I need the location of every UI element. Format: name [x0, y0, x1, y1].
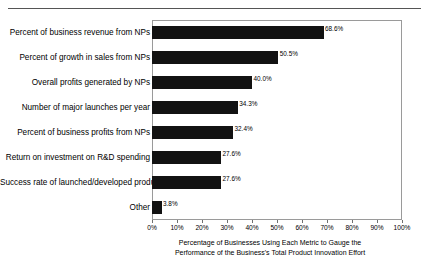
bar: [152, 101, 238, 114]
x-axis-tick-label: 100%: [394, 224, 411, 231]
x-axis-tick-label: 10%: [170, 224, 183, 231]
x-axis-tick-label: 80%: [345, 224, 358, 231]
category-label: Percent of business profits from NPs: [0, 128, 152, 137]
bar-row: Overall profits generated by NPs40.0%: [0, 70, 402, 95]
bar-row: Percent of business revenue from NPs68.6…: [0, 20, 402, 45]
bar: [152, 26, 324, 39]
x-axis-tick-label: 40%: [245, 224, 258, 231]
bar-row: Other3.8%: [0, 195, 402, 220]
bar-value-label: 32.4%: [235, 126, 253, 132]
x-axis-tick: [377, 220, 378, 223]
bar-track: 32.4%: [152, 120, 402, 145]
x-axis-tick: [227, 220, 228, 223]
bar-track: 3.8%: [152, 195, 402, 220]
x-axis-tick: [327, 220, 328, 223]
category-label: Percent of business revenue from NPs: [0, 28, 152, 37]
bar-value-label: 27.6%: [223, 176, 241, 182]
bar-row: Number of major launches per year34.3%: [0, 95, 402, 120]
bar: [152, 51, 278, 64]
x-axis-tick-label: 50%: [270, 224, 283, 231]
x-axis-tick: [177, 220, 178, 223]
x-axis-tick-label: 0%: [147, 224, 157, 231]
bar-track: 27.6%: [152, 145, 402, 170]
bar-track: 68.6%: [152, 20, 402, 45]
category-label: Percent of growth in sales from NPs: [0, 53, 152, 62]
bar-row: Success rate of launched/developed produ…: [0, 170, 402, 195]
top-divider-rule: [8, 8, 421, 9]
bar-value-label: 27.6%: [223, 151, 241, 157]
x-axis-tick-label: 90%: [370, 224, 383, 231]
bar: [152, 76, 252, 89]
x-axis-tick: [152, 220, 153, 223]
x-axis-tick: [252, 220, 253, 223]
x-axis-tick-label: 60%: [295, 224, 308, 231]
bar-value-label: 50.5%: [280, 51, 298, 57]
bar: [152, 151, 221, 164]
bar-rows: Percent of business revenue from NPs68.6…: [0, 20, 402, 220]
x-axis-tick: [202, 220, 203, 223]
x-axis-caption-line-2: Performance of the Business's Total Prod…: [120, 248, 420, 258]
bar-track: 34.3%: [152, 95, 402, 120]
category-label: Overall profits generated by NPs: [0, 78, 152, 87]
x-axis-caption: Percentage of Businesses Using Each Metr…: [120, 238, 420, 258]
bar: [152, 176, 221, 189]
bar: [152, 126, 233, 139]
bar-chart-figure: Percent of business revenue from NPs68.6…: [0, 14, 429, 272]
bar-value-label: 68.6%: [325, 26, 343, 32]
category-label: Number of major launches per year: [0, 103, 152, 112]
bar-track: 27.6%: [152, 170, 402, 195]
bar-track: 50.5%: [152, 45, 402, 70]
x-axis-caption-line-1: Percentage of Businesses Using Each Metr…: [120, 238, 420, 248]
x-axis-tick: [302, 220, 303, 223]
bar-track: 40.0%: [152, 70, 402, 95]
x-axis-tick-label: 30%: [220, 224, 233, 231]
bar-row: Return on investment on R&D spending27.6…: [0, 145, 402, 170]
x-axis-tick-label: 70%: [320, 224, 333, 231]
x-axis-tick: [402, 220, 403, 223]
x-axis-tick: [352, 220, 353, 223]
x-axis-tick: [277, 220, 278, 223]
category-label: Success rate of launched/developed produ…: [0, 178, 152, 187]
bar-row: Percent of business profits from NPs32.4…: [0, 120, 402, 145]
x-axis: 0%10%20%30%40%50%60%70%80%90%100%: [152, 220, 402, 238]
bar-value-label: 34.3%: [239, 101, 257, 107]
x-axis-tick-label: 20%: [195, 224, 208, 231]
bar: [152, 201, 162, 214]
category-label: Other: [0, 203, 152, 212]
bar-row: Percent of growth in sales from NPs50.5%: [0, 45, 402, 70]
category-label: Return on investment on R&D spending: [0, 153, 152, 162]
bar-value-label: 40.0%: [254, 76, 272, 82]
bar-value-label: 3.8%: [163, 201, 178, 207]
